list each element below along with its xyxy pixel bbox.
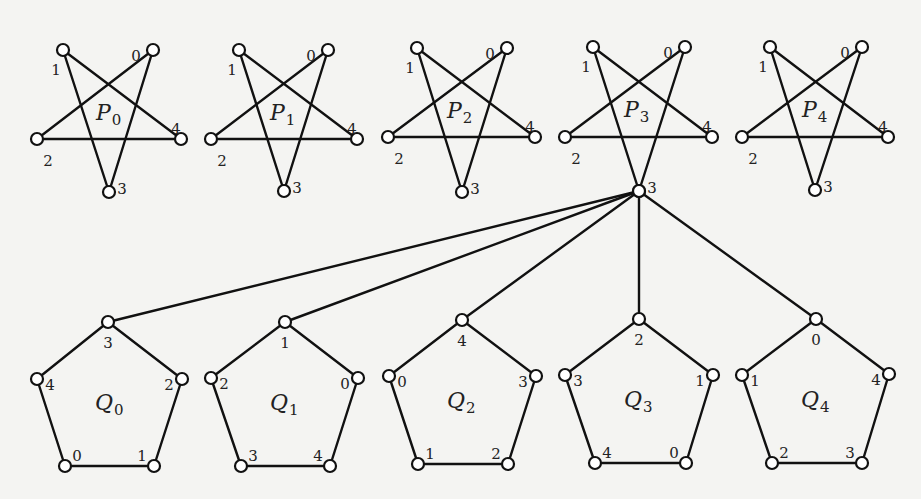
star-P3-vertex-label-1: 1 <box>581 58 591 76</box>
pentagon-Q4-vertex-4 <box>883 368 895 380</box>
pentagon-Q1-edge-left-top <box>211 322 285 378</box>
pentagon-Q3-edge-top-right <box>639 319 713 375</box>
star-P4-vertex-label-1: 1 <box>758 58 768 76</box>
star-P2-vertex-label-2: 2 <box>394 150 404 168</box>
pentagon-Q2-vertex-4 <box>456 314 468 326</box>
pentagon-Q3-edge-left-top <box>565 319 639 375</box>
pentagon-Q2-label: Q2 <box>447 388 476 417</box>
pentagon-Q1-vertex-label-1: 1 <box>280 334 290 352</box>
pentagon-Q2-edge-left-top <box>389 320 462 376</box>
pentagon-Q3-vertex-label-1: 1 <box>695 372 705 390</box>
star-P0-vertex-1 <box>57 44 69 56</box>
pentagon-Q4-vertex-label-2: 2 <box>779 444 789 462</box>
hub-vertex-P3-3 <box>633 185 645 197</box>
star-P4-vertex-label-0: 0 <box>840 44 850 62</box>
star-P0-vertex-2 <box>31 133 43 145</box>
star-P4-vertex-0 <box>856 41 868 53</box>
star-P3-vertex-0 <box>679 41 691 53</box>
star-P1-vertex-3 <box>278 185 290 197</box>
star-P2-vertex-label-0: 0 <box>485 45 495 63</box>
star-P0-vertex-label-0: 0 <box>131 47 141 65</box>
diagram-canvas: 10243P010243P110243P210243P310243P434201… <box>0 0 921 499</box>
pentagon-Q0-vertex-label-4: 4 <box>45 376 55 394</box>
pentagon-Q4-vertex-label-3: 3 <box>845 444 855 462</box>
pentagon-Q0-vertex-label-1: 1 <box>137 447 147 465</box>
pentagon-Q2-vertex-label-3: 3 <box>518 373 528 391</box>
star-P3-vertex-label-3: 3 <box>647 179 657 197</box>
pentagon-Q3-vertex-1 <box>707 369 719 381</box>
pentagon-Q4-vertex-label-4: 4 <box>871 371 881 389</box>
pentagon-Q3-vertex-4 <box>589 457 601 469</box>
star-P3-label: P3 <box>623 97 649 126</box>
star-P1-label: P1 <box>269 100 295 129</box>
pentagon-Q2-vertex-0 <box>383 370 395 382</box>
pentagon-Q4-edge-left-top <box>742 319 816 375</box>
star-P1-vertex-2 <box>205 133 217 145</box>
pentagon-Q1-vertex-2 <box>205 372 217 384</box>
star-P1-vertex-label-2: 2 <box>217 152 227 170</box>
pentagon-Q0-vertex-0 <box>59 460 71 472</box>
pentagon-Q1-label: Q1 <box>270 390 299 419</box>
pentagon-Q4-vertex-1 <box>736 369 748 381</box>
star-P3-vertex-1 <box>587 41 599 53</box>
pentagon-Q0-vertex-label-2: 2 <box>164 376 174 394</box>
pentagon-Q4-edge-top-right <box>816 319 889 374</box>
star-P1-vertex-label-0: 0 <box>306 47 316 65</box>
star-P4-vertex-label-2: 2 <box>748 150 758 168</box>
star-P2-edge-1-4 <box>417 48 535 137</box>
pentagon-Q0-edge-left-top <box>37 322 108 379</box>
star-P4-edge-1-4 <box>770 47 888 137</box>
pentagon-Q4-vertex-label-0: 0 <box>811 331 821 349</box>
star-P2-vertex-3 <box>456 186 468 198</box>
pentagon-Q2-vertex-label-4: 4 <box>457 332 467 350</box>
pentagon-Q2-vertex-label-1: 1 <box>425 445 435 463</box>
star-P1-vertex-label-3: 3 <box>292 179 302 197</box>
star-P0-vertex-label-3: 3 <box>117 180 127 198</box>
pentagon-Q0-vertex-4 <box>31 373 43 385</box>
star-P0-vertex-0 <box>147 44 159 56</box>
pentagon-Q0-label: Q0 <box>95 390 124 419</box>
star-P2-vertex-label-1: 1 <box>405 59 415 77</box>
pentagon-Q1-vertex-label-0: 0 <box>340 375 350 393</box>
pentagon-Q1-edge-top-right <box>285 322 358 378</box>
pentagon-Q0-vertex-3 <box>102 316 114 328</box>
pentagon-Q1-vertex-3 <box>235 460 247 472</box>
pentagon-Q0-vertex-label-3: 3 <box>103 334 113 352</box>
star-P0-label: P0 <box>95 100 121 129</box>
pentagon-Q1-vertex-label-3: 3 <box>248 447 258 465</box>
pentagon-Q2-vertex-label-2: 2 <box>491 445 501 463</box>
pentagon-Q1-vertex-label-2: 2 <box>219 375 229 393</box>
pentagon-Q1-vertex-label-4: 4 <box>313 447 323 465</box>
star-P3-vertex-label-4: 4 <box>702 118 712 136</box>
star-P3-vertex-label-2: 2 <box>571 150 581 168</box>
star-P2-label: P2 <box>446 98 472 127</box>
pentagon-Q2-vertex-1 <box>412 458 424 470</box>
star-P1-vertex-label-1: 1 <box>227 61 237 79</box>
pentagon-Q4-vertex-0 <box>810 313 822 325</box>
star-P0-edge-1-4 <box>63 50 181 139</box>
pentagon-Q3-vertex-label-0: 0 <box>669 444 679 462</box>
hub-edge-to-Q0 <box>108 191 639 322</box>
pentagon-Q3-label: Q3 <box>624 387 653 416</box>
pentagon-Q3-vertex-label-2: 2 <box>634 331 644 349</box>
star-P0-vertex-label-2: 2 <box>43 152 53 170</box>
pentagon-Q3-vertex-2 <box>633 313 645 325</box>
pentagon-Q4-vertex-2 <box>766 457 778 469</box>
pentagon-Q2-vertex-3 <box>530 370 542 382</box>
pentagon-Q1-vertex-1 <box>279 316 291 328</box>
star-P2-vertex-1 <box>411 42 423 54</box>
star-P1-vertex-1 <box>233 44 245 56</box>
star-P0-vertex-label-4: 4 <box>171 120 181 138</box>
star-P0-vertex-3 <box>103 186 115 198</box>
star-P3-edge-1-4 <box>593 47 712 137</box>
pentagon-Q4-vertex-label-1: 1 <box>750 372 760 390</box>
star-P3-vertex-2 <box>559 131 571 143</box>
hub-edge-to-Q1 <box>285 191 639 322</box>
pentagon-Q2-edge-top-right <box>462 320 536 376</box>
hub-edge-to-Q2 <box>462 191 639 320</box>
star-P2-vertex-label-4: 4 <box>525 118 535 136</box>
star-P2-vertex-label-3: 3 <box>470 180 480 198</box>
star-P4-vertex-label-4: 4 <box>878 118 888 136</box>
star-P1-edge-1-4 <box>239 50 357 139</box>
pentagon-Q0-vertex-2 <box>176 373 188 385</box>
